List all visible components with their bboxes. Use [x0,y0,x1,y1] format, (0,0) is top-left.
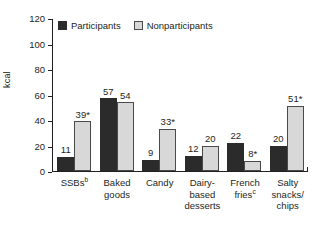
bar-nonparticipants[interactable] [117,102,134,171]
bar-column: 51* [287,19,304,171]
x-axis-category-label: Bakedgoods [96,177,139,212]
x-axis-category-label: Frenchfriesc [224,177,267,212]
bar-chart: Participants Nonparticipants kcal 020406… [0,0,321,227]
category-label-line: Baked [96,177,139,189]
bar-value-label: 11 [61,145,71,155]
bar-groups: 1139*5754933*1220228*2051* [53,19,308,171]
bar-value-label: 20 [273,134,284,144]
category-label-line: goods [96,189,139,201]
x-axis-category-label: Dairy-baseddesserts [181,177,224,212]
category-label-line: Salty [266,177,309,189]
bar-column: 11 [57,19,74,171]
bar-column: 39* [74,19,91,171]
x-axis-category-label: SSBsb [53,177,96,212]
x-axis-category-label: Saltysnacks/chips [266,177,309,212]
bar-pair: 933* [138,19,181,171]
category-label-line: French [224,177,267,189]
y-axis-title: kcal [2,71,12,88]
bar-value-label: 33* [161,117,175,127]
bar-column: 20 [270,19,287,171]
category-footnote-marker: c [252,187,255,194]
category-label-line: based [181,189,224,201]
bar-participants[interactable] [270,146,287,172]
y-axis-tick: 0 [48,172,52,173]
category-label-line: desserts [181,200,224,212]
y-axis-tick-label: 0 [40,166,45,177]
y-axis-tick-label: 20 [34,141,45,152]
category-label-line: snacks/ [266,189,309,201]
bar-pair: 1220 [181,19,224,171]
bar-group: 1220 [181,19,224,171]
y-axis-tick-label: 80 [34,64,45,75]
bar-pair: 5754 [96,19,139,171]
bar-group: 933* [138,19,181,171]
bar-pair: 228* [223,19,266,171]
y-axis-tick-label: 100 [29,39,45,50]
category-label-line: Dairy- [181,177,224,189]
bar-value-label: 20 [205,134,216,144]
bar-pair: 2051* [266,19,309,171]
x-axis-category-label: Candy [138,177,181,212]
bar-pair: 1139* [53,19,96,171]
y-axis-tick: 100 [48,45,52,46]
plot-area: 020406080100120 1139*5754933*1220228*205… [52,19,308,172]
bar-column: 54 [117,19,134,171]
bar-nonparticipants[interactable] [287,106,304,171]
y-axis-tick: 120 [48,19,52,20]
bar-column: 33* [159,19,176,171]
y-axis-tick: 60 [48,96,52,97]
bar-group: 5754 [96,19,139,171]
bar-group: 1139* [53,19,96,171]
bar-value-label: 51* [288,94,302,104]
category-label-line: Candy [138,177,181,189]
y-axis-tick: 40 [48,121,52,122]
y-axis-tick-label: 120 [29,13,45,24]
y-axis-tick: 20 [48,147,52,148]
bar-participants[interactable] [142,160,159,171]
bar-value-label: 54 [120,91,131,101]
bar-column: 9 [142,19,159,171]
bar-participants[interactable] [57,157,74,171]
category-label-line: friesc [224,189,267,201]
bar-value-label: 12 [188,144,199,154]
bar-value-label: 57 [103,87,114,97]
category-label-line: SSBsb [53,177,96,189]
bar-value-label: 22 [230,131,241,141]
bar-column: 8* [244,19,261,171]
bar-column: 22 [227,19,244,171]
category-footnote-marker: b [84,176,88,183]
bar-column: 57 [100,19,117,171]
bar-value-label: 8* [248,149,257,159]
bar-participants[interactable] [185,156,202,171]
bar-column: 12 [185,19,202,171]
bar-nonparticipants[interactable] [159,129,176,171]
bar-value-label: 9 [148,148,153,158]
bar-participants[interactable] [100,98,117,171]
y-axis-tick-label: 60 [34,90,45,101]
bar-column: 20 [202,19,219,171]
bar-group: 2051* [266,19,309,171]
bar-value-label: 39* [76,110,90,120]
category-label-line: chips [266,200,309,212]
x-axis-line [52,171,308,172]
x-axis-category-labels: SSBsbBakedgoodsCandyDairy-baseddessertsF… [53,177,309,212]
y-axis-tick: 80 [48,70,52,71]
bar-nonparticipants[interactable] [202,146,219,172]
bar-group: 228* [223,19,266,171]
bar-nonparticipants[interactable] [74,121,91,171]
bar-nonparticipants[interactable] [244,161,261,171]
bar-participants[interactable] [227,143,244,171]
y-axis-tick-label: 40 [34,115,45,126]
